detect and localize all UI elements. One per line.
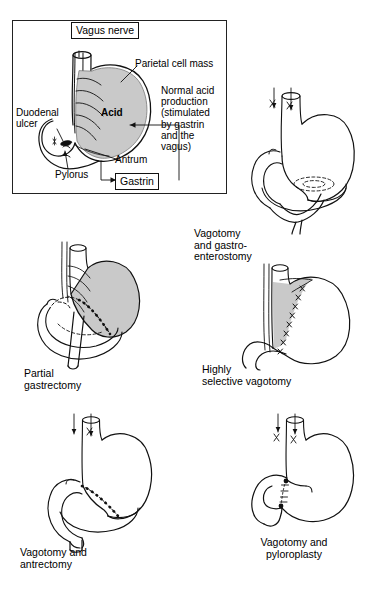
normal-acid-production-description: Normal acid production (stimulated by ga… (161, 85, 225, 152)
caption-partial-gastrectomy: Partial gastrectomy (24, 368, 134, 391)
caption-vagotomy-and-pyloroplasty: Vagotomy and pyloroplasty (204, 537, 370, 560)
highly-selective-vagotomy-illustration (240, 258, 368, 370)
panel-vagotomy-and-antrectomy: Vagotomy and antrectomy (36, 412, 176, 552)
label-antrum: Antrum (115, 154, 147, 165)
partial-gastrectomy-illustration (34, 238, 174, 378)
label-pylorus: Pylorus (55, 169, 88, 180)
label-parietal-cell-mass: Parietal cell mass (135, 58, 213, 69)
panel-highly-selective-vagotomy: Highly selective vagotomy (240, 258, 368, 370)
label-vagus-nerve: Vagus nerve (71, 22, 139, 39)
figure-root: Vagus nerve Gastrin Parietal cell mass D… (0, 0, 370, 592)
caption-highly-selective-vagotomy: Highly selective vagotomy (202, 364, 342, 387)
vagotomy-pyloroplasty-illustration (236, 412, 366, 542)
panel-vagotomy-and-gastroenterostomy: Vagotomy and gastro- enterostomy (236, 84, 366, 234)
caption-vagotomy-and-antrectomy: Vagotomy and antrectomy (20, 547, 150, 570)
vagotomy-antrectomy-illustration (36, 412, 176, 552)
vagotomy-gastroenterostomy-illustration (236, 84, 366, 234)
label-acid: Acid (101, 107, 123, 118)
panel-vagotomy-and-pyloroplasty: Vagotomy and pyloroplasty (236, 412, 366, 542)
label-gastrin: Gastrin (115, 173, 159, 190)
panel-normal-acid-production: Vagus nerve Gastrin Parietal cell mass D… (12, 20, 227, 194)
label-duodenal-ulcer: Duodenal ulcer (16, 107, 59, 129)
panel-partial-gastrectomy: Partial gastrectomy (34, 238, 174, 378)
